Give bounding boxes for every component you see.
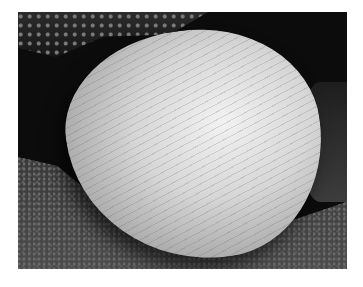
shell-photo <box>18 12 347 269</box>
